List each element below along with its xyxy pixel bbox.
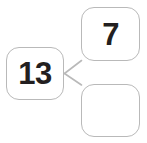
whole-value: 13: [18, 58, 51, 89]
part-box-1[interactable]: 7: [81, 7, 140, 61]
connector-line-to-part-1: [65, 61, 82, 74]
connector-line-to-part-2: [65, 74, 82, 86]
part-box-2-blank[interactable]: [81, 84, 140, 137]
whole-box[interactable]: 13: [6, 47, 64, 100]
number-bond-diagram: 13 7: [0, 0, 147, 143]
part-1-value: 7: [102, 19, 119, 50]
